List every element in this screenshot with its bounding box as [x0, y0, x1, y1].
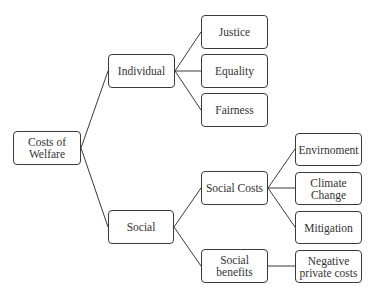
node-label: Climate Change	[310, 177, 346, 201]
costs-of-welfare-diagram: Costs of Welfare Individual Justice Equa…	[0, 0, 375, 297]
node-costs-of-welfare: Costs of Welfare	[13, 131, 81, 165]
node-label: Equality	[215, 65, 254, 77]
edge-root-social	[81, 148, 108, 227]
edge-root-individual	[81, 71, 108, 148]
edge-social-social-benefits	[174, 227, 201, 266]
node-label: Social Costs	[206, 182, 263, 194]
node-label: Costs of Welfare	[28, 136, 66, 160]
edge-individual-justice	[175, 32, 201, 71]
node-individual: Individual	[108, 54, 175, 88]
node-justice: Justice	[201, 15, 268, 49]
node-equality: Equality	[201, 54, 268, 88]
node-social-costs: Social Costs	[201, 171, 268, 205]
node-label: Social benefits	[216, 254, 252, 278]
edge-social-costs-mitigation	[268, 188, 295, 227]
node-climate-change: Climate Change	[295, 172, 362, 205]
node-label: Envirnoment	[298, 144, 358, 156]
node-social: Social	[108, 210, 174, 244]
node-label: Social	[127, 221, 156, 233]
edge-individual-fairness	[175, 71, 201, 110]
node-label: Mitigation	[304, 222, 353, 234]
node-label: Justice	[219, 26, 250, 38]
edge-social-social-costs	[174, 188, 201, 227]
edge-social-costs-environment	[268, 149, 295, 188]
node-label: Negative private costs	[300, 255, 358, 279]
node-fairness: Fairness	[201, 93, 268, 127]
node-environment: Envirnoment	[295, 133, 362, 166]
node-label: Fairness	[215, 104, 253, 116]
node-social-benefits: Social benefits	[201, 249, 268, 283]
node-mitigation: Mitigation	[295, 211, 362, 244]
node-negative-private-costs: Negative private costs	[295, 250, 362, 283]
node-label: Individual	[118, 65, 165, 77]
